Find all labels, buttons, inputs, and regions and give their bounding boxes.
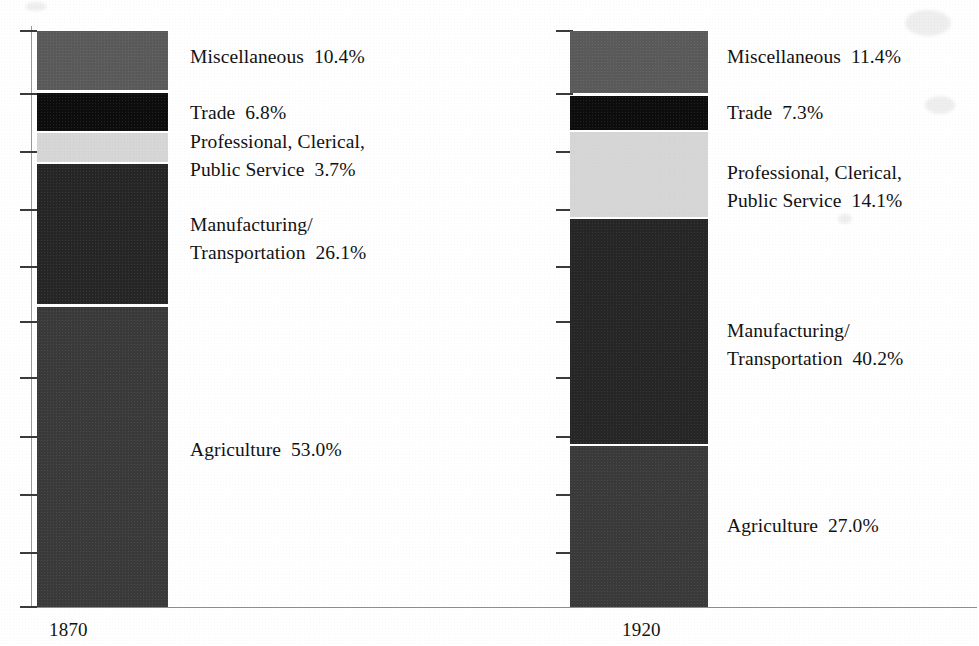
segment-label-professional-1870-line2: Public Service 3.7% <box>190 157 356 182</box>
segment-label-professional-1870-line1: Professional, Clerical, <box>190 129 365 154</box>
y-axis-tick-070 <box>20 377 37 379</box>
segment-label-trade-1870: Trade 6.8% <box>190 100 286 125</box>
y-axis-tick-080 <box>20 266 37 268</box>
x-axis-label-1870: 1870 <box>49 619 88 641</box>
segment-label-agriculture-1870: Agriculture 53.0% <box>190 437 342 462</box>
y-axis-line <box>31 26 32 608</box>
bar-segment-manufacturing-1870[interactable] <box>37 164 168 304</box>
segment-label-miscellaneous-1870: Miscellaneous 10.4% <box>190 44 365 69</box>
chart-canvas: 1870 Miscellaneous 10.4% Trade 6.8% Prof… <box>0 0 979 646</box>
segment-label-trade-1920: Trade 7.3% <box>727 100 823 125</box>
stacked-bar-1870[interactable] <box>37 31 168 607</box>
scan-blemish <box>25 2 47 11</box>
y-axis-tick-065 <box>20 436 37 438</box>
segment-label-agriculture-1920: Agriculture 27.0% <box>727 513 879 538</box>
scan-blemish <box>905 10 951 36</box>
x-axis-baseline <box>31 607 977 608</box>
segment-label-manufacturing-1920-line2: Transportation 40.2% <box>727 346 903 371</box>
bar-segment-miscellaneous-1920[interactable] <box>570 31 708 93</box>
y-axis-tick-055 <box>20 552 37 554</box>
y-axis-tick-075 <box>20 321 37 323</box>
x-axis-label-1920: 1920 <box>622 619 661 641</box>
bar-segment-agriculture-1920[interactable] <box>570 446 708 607</box>
bar-segment-professional-1870[interactable] <box>37 133 168 162</box>
segment-label-miscellaneous-1920: Miscellaneous 11.4% <box>727 44 901 69</box>
bar-segment-trade-1870[interactable] <box>37 93 168 131</box>
y-axis-tick-050 <box>20 606 37 608</box>
segment-label-manufacturing-1870-line2: Transportation 26.1% <box>190 240 366 265</box>
segment-label-manufacturing-1920-line1: Manufacturing/ <box>727 318 850 343</box>
bar-segment-professional-1920[interactable] <box>570 132 708 217</box>
y-axis-tick-095 <box>20 93 37 95</box>
scan-blemish <box>838 214 852 224</box>
y-axis-tick-085 <box>20 209 37 211</box>
bar-segment-manufacturing-1920[interactable] <box>570 219 708 444</box>
stacked-bar-1920[interactable] <box>570 31 708 607</box>
scan-blemish <box>925 96 955 114</box>
y-axis-tick-100 <box>20 30 37 32</box>
bar-segment-agriculture-1870[interactable] <box>37 307 168 607</box>
bar-segment-miscellaneous-1870[interactable] <box>37 31 168 90</box>
segment-label-manufacturing-1870-line1: Manufacturing/ <box>190 212 313 237</box>
bar-segment-trade-1920[interactable] <box>570 96 708 130</box>
y-axis-tick-090 <box>20 151 37 153</box>
segment-label-professional-1920-line1: Professional, Clerical, <box>727 160 902 185</box>
y-axis-tick-060 <box>20 494 37 496</box>
segment-label-professional-1920-line2: Public Service 14.1% <box>727 188 902 213</box>
